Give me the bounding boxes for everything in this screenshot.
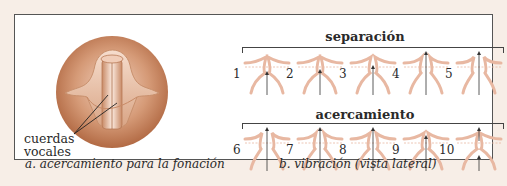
stage-number-9: 9 [392,143,400,157]
heading-separacion: separación [325,29,404,44]
stage-number-1: 1 [233,67,241,81]
vocal-cords-label: cuerdas vocales [24,132,74,158]
vibration-stage-5 [453,51,505,95]
figure-frame: cuerdas vocales a. acercamiento para la … [14,14,493,160]
stage-number-7: 7 [286,143,294,157]
vibration-stage-10 [453,127,505,171]
stage-number-8: 8 [339,143,347,157]
stage-number-2: 2 [286,67,294,81]
heading-acercamiento: acercamiento [316,107,415,122]
stage-number-3: 3 [339,67,347,81]
stage-number-10: 10 [439,143,454,157]
caption-b: b. vibración (vista lateral) [279,157,436,171]
stage-number-6: 6 [233,143,241,157]
stage-number-4: 4 [392,67,400,81]
caption-a: a. acercamiento para la fonación [25,157,225,171]
stage-number-5: 5 [445,67,453,81]
